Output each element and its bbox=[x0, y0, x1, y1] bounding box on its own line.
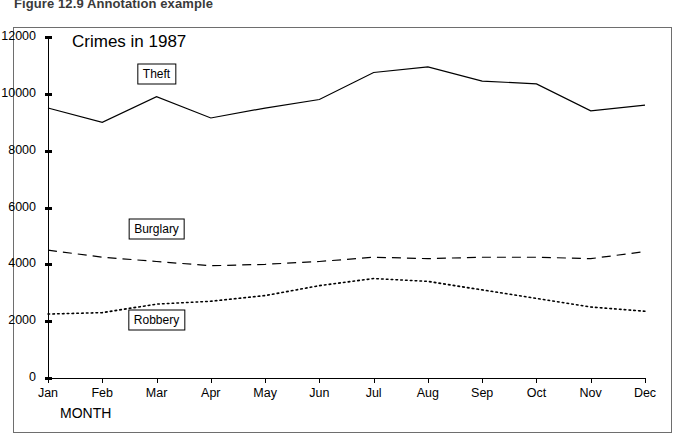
x-tick-label: Apr bbox=[191, 386, 231, 400]
x-tick-label: Jan bbox=[28, 386, 68, 400]
x-tick-mark bbox=[102, 378, 103, 383]
y-tick-mark bbox=[45, 36, 52, 39]
x-axis-line bbox=[48, 378, 645, 379]
x-tick-mark bbox=[319, 378, 320, 383]
y-tick-label: 4000 bbox=[8, 256, 36, 270]
annotation-burglary: Burglary bbox=[128, 218, 185, 239]
y-tick-mark bbox=[45, 263, 52, 266]
x-tick-label: Sep bbox=[462, 386, 502, 400]
figure-caption: Figure 12.9 Annotation example bbox=[14, 0, 213, 11]
y-axis-labels: 020004000600080001000012000 bbox=[0, 37, 42, 379]
x-tick-label: Mar bbox=[137, 386, 177, 400]
x-tick-label: Aug bbox=[408, 386, 448, 400]
x-tick-mark bbox=[211, 378, 212, 383]
y-tick-mark bbox=[45, 150, 52, 153]
y-tick-mark bbox=[45, 207, 52, 210]
x-tick-mark bbox=[645, 378, 646, 383]
x-axis-title: MONTH bbox=[60, 405, 111, 421]
x-tick-mark bbox=[428, 378, 429, 383]
annotation-theft: Theft bbox=[137, 63, 176, 84]
x-tick-label: Dec bbox=[625, 386, 665, 400]
x-tick-label: Nov bbox=[571, 386, 611, 400]
x-tick-label: Jun bbox=[299, 386, 339, 400]
y-tick-label: 2000 bbox=[8, 313, 36, 327]
y-tick-mark bbox=[45, 320, 52, 323]
chart-title: Crimes in 1987 bbox=[72, 32, 186, 52]
x-tick-label: Oct bbox=[516, 386, 556, 400]
x-tick-mark bbox=[591, 378, 592, 383]
y-tick-label: 12000 bbox=[1, 29, 36, 43]
x-tick-label: Jul bbox=[354, 386, 394, 400]
annotation-robbery: Robbery bbox=[128, 309, 185, 330]
y-tick-label: 8000 bbox=[8, 143, 36, 157]
x-tick-mark bbox=[482, 378, 483, 383]
x-tick-label: Feb bbox=[82, 386, 122, 400]
chart-frame: Crimes in 1987 bbox=[13, 27, 672, 433]
x-tick-mark bbox=[157, 378, 158, 383]
x-tick-mark bbox=[536, 378, 537, 383]
y-tick-label: 0 bbox=[29, 370, 36, 384]
x-tick-label: May bbox=[245, 386, 285, 400]
x-tick-mark bbox=[265, 378, 266, 383]
x-tick-mark bbox=[374, 378, 375, 383]
y-tick-label: 6000 bbox=[8, 200, 36, 214]
y-tick-mark bbox=[45, 377, 52, 380]
y-tick-mark bbox=[45, 93, 52, 96]
y-tick-label: 10000 bbox=[1, 86, 36, 100]
